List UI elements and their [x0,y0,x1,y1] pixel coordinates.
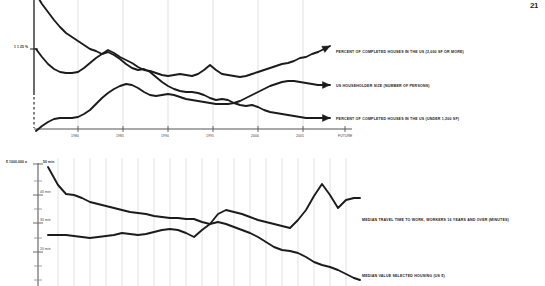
top-series-arrow-0 [322,46,330,52]
bottom-y-tick-label-0: 40 min [40,191,51,194]
top-chart-panel: 1 1 25 % 198019851990199520002005FUTURE … [0,0,545,148]
top-y-axis-note: 1 1 25 % [14,46,28,49]
top-x-tick-label-6: FUTURE [338,135,352,138]
bottom-legend-item-1: MEDIAN VALUE SELECTED HOUSING (US $) [362,275,445,279]
top-x-tick-label-5: 2005 [296,135,304,138]
top-series-line-1 [36,81,318,131]
bottom-y-axis-note-left: $ 1000,000 a [6,161,27,164]
top-x-tick-label-1: 1985 [116,135,124,138]
top-x-tick-label-4: 2000 [251,135,259,138]
top-series-line-0 [36,0,318,77]
top-series-arrow-2 [323,115,331,122]
bottom-y-axis-note-right: 50 min [43,161,54,164]
top-legend-item-1: US HOUSEHOLDER SIZE (NUMBER OF PERSONS) [336,85,430,89]
bottom-legend-item-0: MEDIAN TRAVEL TIME TO WORK, WORKERS 16 Y… [362,219,509,223]
bottom-series-tail-1 [354,278,360,280]
top-x-tick-label-0: 1980 [71,135,79,138]
bottom-series-line-1 [48,222,354,278]
top-legend-item-2: PERCENT OF COMPLETED HOUSES IN THE US (U… [336,118,459,122]
top-x-tick-label-3: 1995 [206,135,214,138]
top-series-arrow-1 [323,82,331,89]
top-x-tick-label-2: 1990 [161,135,169,138]
figure-page: 21 1 1 25 % 198019851990199520002005FUTU… [0,0,545,286]
bottom-series-line-0 [48,167,354,228]
bottom-y-tick-label-1: 30 min [40,219,51,222]
top-legend-item-0: PERCENT OF COMPLETED HOUSES IN THE US (2… [336,51,464,55]
bottom-y-tick-label-2: 20 min [40,248,51,251]
top-chart-svg [0,0,545,148]
